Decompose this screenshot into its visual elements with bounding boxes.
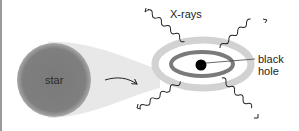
arrowhead-bottom-right bbox=[254, 114, 258, 118]
star-label: star bbox=[45, 74, 63, 86]
arrowhead-top-right bbox=[263, 19, 267, 23]
diagram-canvas bbox=[0, 0, 299, 131]
black-hole bbox=[196, 60, 207, 71]
arrowhead-top-left bbox=[145, 8, 149, 12]
xrays-label: X-rays bbox=[170, 8, 202, 20]
black-hole-label-line2: hole bbox=[258, 65, 279, 77]
black-hole-label-line1: black bbox=[258, 53, 284, 65]
